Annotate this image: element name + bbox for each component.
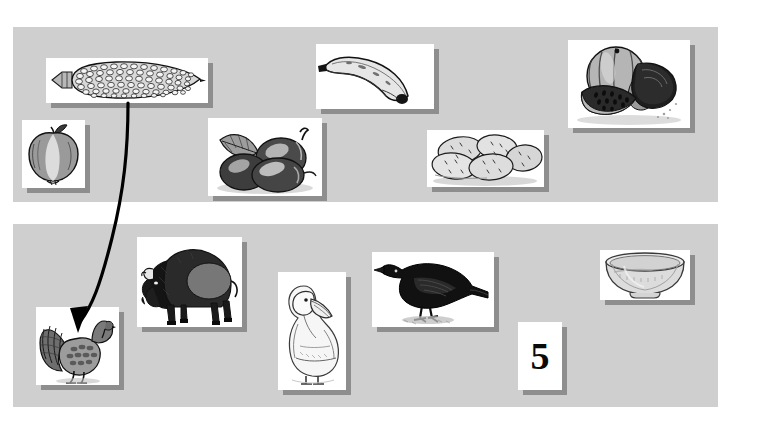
plums-illustration xyxy=(208,118,322,196)
card-potatoes[interactable] xyxy=(427,130,544,187)
card-watermelon[interactable] xyxy=(568,40,690,128)
card-plums[interactable] xyxy=(208,118,322,196)
card-number-five[interactable]: 5 xyxy=(518,322,562,390)
pelican-illustration xyxy=(278,272,346,390)
crow-illustration xyxy=(372,252,494,327)
apple-illustration xyxy=(22,120,85,188)
card-apple[interactable] xyxy=(22,120,85,188)
bowl-illustration xyxy=(600,250,690,300)
diagram-canvas: 5 xyxy=(0,0,758,424)
watermelon-illustration xyxy=(568,40,690,128)
card-banana[interactable] xyxy=(316,44,434,109)
card-bowl[interactable] xyxy=(600,250,690,300)
card-turkey[interactable] xyxy=(36,307,119,385)
turkey-illustration xyxy=(36,307,119,385)
banana-illustration xyxy=(316,44,434,109)
bison-illustration xyxy=(137,237,242,327)
potatoes-illustration xyxy=(427,130,544,187)
card-crow[interactable] xyxy=(372,252,494,327)
card-pelican[interactable] xyxy=(278,272,346,390)
number-five-text: 5 xyxy=(531,337,550,375)
card-bison[interactable] xyxy=(137,237,242,327)
corn-illustration xyxy=(46,58,208,103)
card-corn[interactable] xyxy=(46,58,208,103)
